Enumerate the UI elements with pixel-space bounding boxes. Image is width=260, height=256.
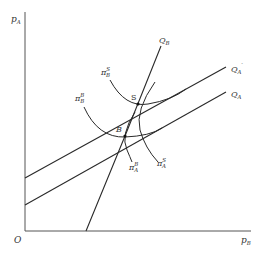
- qa-prime-label: QA′: [231, 62, 244, 75]
- qa-label: QA: [231, 90, 242, 100]
- piA-S-label: πSA: [156, 157, 166, 169]
- diagram: pA O pB QB QA′ QA πSB πBB πBA πSA S B: [0, 0, 260, 256]
- qa-line: [25, 92, 226, 205]
- y-axis-label: pA: [11, 14, 21, 25]
- qb-label: QB: [159, 36, 170, 46]
- piA-B-label: πBA: [128, 161, 138, 173]
- piB-B-label: πBB: [74, 92, 84, 104]
- x-axis-label: pB: [241, 235, 251, 246]
- point-b: [123, 134, 126, 137]
- point-s-label: S: [131, 93, 136, 102]
- piB-S-label: πSB: [100, 66, 110, 78]
- origin-label: O: [14, 235, 22, 245]
- iso-profit-curve-piB-B: [84, 107, 162, 137]
- point-s: [136, 102, 139, 105]
- point-b-label: B: [115, 125, 122, 134]
- qa-prime-line: [25, 67, 226, 178]
